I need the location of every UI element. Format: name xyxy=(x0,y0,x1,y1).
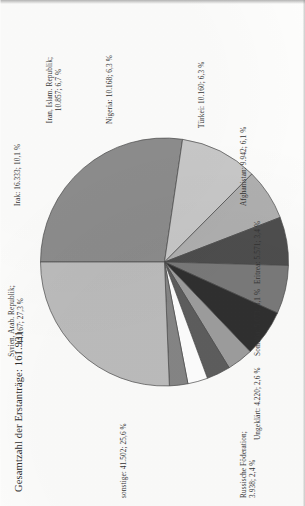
label-tuerkei: Türkei: 10.160; 6,3 % xyxy=(196,62,205,128)
label-syrien-name: Syrien, Arab. Republik; xyxy=(6,285,15,357)
figure-frame: Gesamtzahl der Erstanträge: 161.931 Syri… xyxy=(0,0,305,506)
label-russland-value: 3.938; 2,4 % xyxy=(247,460,256,499)
scan-edge-bottom xyxy=(302,0,305,506)
label-iran: Iran, Islam. Republik; 10.857; 6,7 % xyxy=(44,44,62,136)
pie-slice xyxy=(40,262,169,386)
label-ungeklaert: Ungeklärt: 4.220; 2,6 % xyxy=(252,367,261,440)
label-irak: Irak: 16.333; 10,1 % xyxy=(12,144,21,206)
label-nigeria: Nigeria: 10.168; 6,3 % xyxy=(104,55,113,124)
label-russland: Russische Föderation; 3.938; 2,4 % xyxy=(238,431,256,498)
scan-edge-right xyxy=(0,0,305,4)
pie-chart-figure: Gesamtzahl der Erstanträge: 161.931 Syri… xyxy=(0,0,305,506)
label-syrien: Syrien, Arab. Republik; 44.167; 27,3 % xyxy=(6,266,24,376)
label-syrien-value: 44.167; 27,3 % xyxy=(15,298,24,344)
label-eritrea: Eritrea: 5.571; 3,4 % xyxy=(252,221,261,284)
pie-slice xyxy=(40,138,182,262)
label-iran-name: Iran, Islam. Republik; xyxy=(44,57,53,123)
label-iran-value: 10.857; 6,7 % xyxy=(53,69,62,111)
label-sonstige: sonstige: 41.502; 25,6 % xyxy=(118,423,127,498)
label-afghanistan: Afghanistan: 9.942; 6,1 % xyxy=(238,127,247,206)
label-russland-name: Russische Föderation; xyxy=(238,431,247,498)
label-somalia: Somalia: 5.073; 3,1 % xyxy=(252,289,261,356)
